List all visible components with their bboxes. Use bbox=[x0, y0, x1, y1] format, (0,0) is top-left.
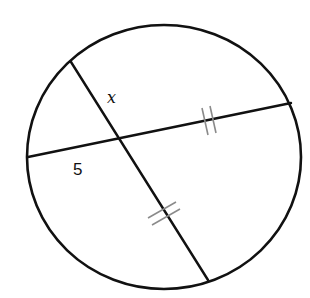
congruence-ticks-diagonal bbox=[148, 202, 180, 225]
intersecting-chords-diagram: x 5 bbox=[0, 0, 310, 298]
label-x: x bbox=[107, 88, 116, 107]
chord-diagonal bbox=[71, 62, 208, 280]
chord-horizontal bbox=[28, 103, 291, 157]
circle bbox=[27, 25, 301, 289]
label-five: 5 bbox=[73, 160, 82, 179]
